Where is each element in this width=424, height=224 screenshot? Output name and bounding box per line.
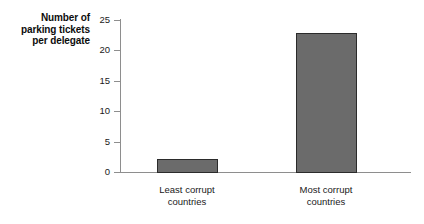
y-tick-label-0-box: 0	[90, 167, 110, 177]
y-axis-title-line-3: per delegate	[4, 35, 90, 47]
bar-chart: Number of parking tickets per delegate 2…	[0, 0, 424, 224]
category-label-most-corrupt-countries: Most corrupt countries	[266, 184, 386, 207]
y-tick-label-20: 20	[90, 45, 110, 55]
category-label-least-line-1: Least corrupt	[127, 184, 247, 196]
bar-most-corrupt-countries	[296, 33, 357, 173]
y-tick-mark-10	[114, 111, 120, 112]
y-tick-mark-25	[114, 20, 120, 21]
y-axis-line	[120, 19, 121, 173]
y-tick-mark-0	[114, 172, 120, 173]
y-tick-label-15-box: 15	[90, 76, 110, 86]
bar-least-corrupt-countries	[157, 159, 218, 173]
y-tick-label-20-box: 20	[90, 45, 110, 55]
y-tick-label-0: 0	[90, 167, 110, 177]
y-tick-label-5: 5	[90, 137, 110, 147]
category-label-least-corrupt-countries: Least corrupt countries	[127, 184, 247, 207]
y-tick-mark-5	[114, 142, 120, 143]
y-axis-title-line-1: Number of	[4, 12, 90, 24]
y-axis-title: Number of parking tickets per delegate	[4, 12, 90, 47]
category-label-most-line-1: Most corrupt	[266, 184, 386, 196]
category-label-least-line-2: countries	[127, 196, 247, 208]
y-tick-label-5-box: 5	[90, 137, 110, 147]
y-tick-label-25-box: 25	[90, 15, 110, 25]
y-tick-mark-20	[114, 50, 120, 51]
y-tick-label-15: 15	[90, 76, 110, 86]
y-axis-title-line-2: parking tickets	[4, 24, 90, 36]
y-tick-label-10: 10	[90, 106, 110, 116]
y-tick-label-25: 25	[90, 15, 110, 25]
y-tick-mark-15	[114, 81, 120, 82]
category-label-most-line-2: countries	[266, 196, 386, 208]
y-tick-label-10-box: 10	[90, 106, 110, 116]
